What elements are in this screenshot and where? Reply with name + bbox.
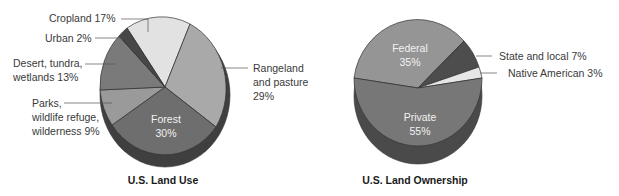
label-cropland: Cropland 17%	[49, 12, 116, 24]
label-urban: Urban 2%	[45, 32, 92, 44]
label-parks-2: wildlife refuge,	[31, 111, 99, 123]
chart-title-land-use: U.S. Land Use	[128, 174, 199, 186]
label-parks-1: Parks,	[32, 97, 62, 109]
land-ownership-pie-chart: State and local 7% Native American 3% Fe…	[310, 0, 619, 196]
label-native-american: Native American 3%	[508, 67, 603, 79]
label-state-local: State and local 7%	[499, 50, 587, 62]
chart-title-land-ownership: U.S. Land Ownership	[362, 174, 468, 186]
label-rangeland-2: and pasture	[253, 76, 309, 88]
land-use-pie-chart: Cropland 17% Urban 2% Desert, tundra, we…	[0, 0, 310, 196]
label-rangeland-1: Rangeland	[253, 62, 304, 74]
label-federal-name: Federal	[392, 42, 428, 54]
label-desert-2: wetlands 13%	[12, 71, 78, 83]
label-rangeland-3: 29%	[253, 90, 274, 102]
label-desert-1: Desert, tundra,	[13, 57, 82, 69]
label-forest-pct: 30%	[155, 127, 176, 139]
label-federal-pct: 35%	[399, 56, 420, 68]
label-parks-3: wilderness 9%	[31, 125, 100, 137]
label-private-name: Private	[404, 111, 437, 123]
label-forest-name: Forest	[151, 113, 181, 125]
label-private-pct: 55%	[409, 125, 430, 137]
